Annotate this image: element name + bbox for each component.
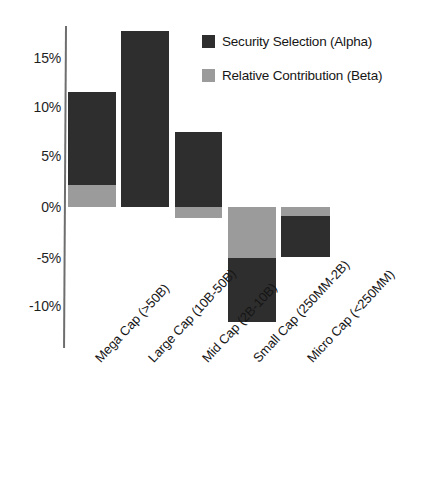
performance-attribution-chart: 15%10%5%0%-5%-10% Security Selection (Al… xyxy=(0,0,425,496)
category-label-3: Small Cap (250MM-2B) xyxy=(250,257,352,365)
x-axis-category-labels: Mega Cap (>50B)Large Cap (10B-50B)Mid Ca… xyxy=(0,0,425,496)
category-label-1: Large Cap (10B-50B) xyxy=(145,266,239,365)
